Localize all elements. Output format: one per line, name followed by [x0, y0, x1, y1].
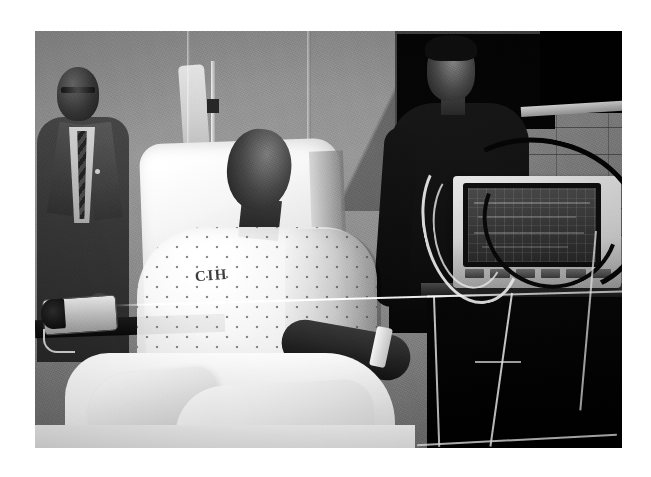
blood-pressure-tube [43, 329, 75, 353]
iv-pole-clamp [207, 99, 219, 113]
photo-page: CIH [0, 0, 651, 477]
eyeglasses-icon [61, 87, 95, 93]
cart-drawer-handle [475, 361, 521, 363]
man-in-suit-head [57, 67, 99, 121]
photograph: CIH [35, 31, 622, 448]
gown-label-text: CIH [194, 266, 228, 285]
standing-man-hair [425, 35, 477, 61]
bed-sheet [35, 425, 415, 448]
equipment-cart [427, 293, 622, 448]
lapel-pin [95, 169, 100, 174]
